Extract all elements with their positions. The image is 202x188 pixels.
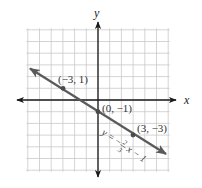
coordinate-plane: x y (−3, 1) (0, −1) (3, −3) y = − 2 3 x … bbox=[0, 0, 202, 188]
x-axis-label: x bbox=[183, 93, 190, 107]
y-axis-label: y bbox=[93, 6, 100, 20]
label-point-3-neg3: (3, −3) bbox=[137, 122, 167, 135]
point-0-neg1 bbox=[96, 109, 101, 114]
point-neg3-1 bbox=[61, 86, 66, 91]
label-point-0-neg1: (0, −1) bbox=[102, 102, 132, 115]
point-3-neg3 bbox=[131, 133, 136, 138]
label-point-neg3-1: (−3, 1) bbox=[58, 73, 88, 86]
